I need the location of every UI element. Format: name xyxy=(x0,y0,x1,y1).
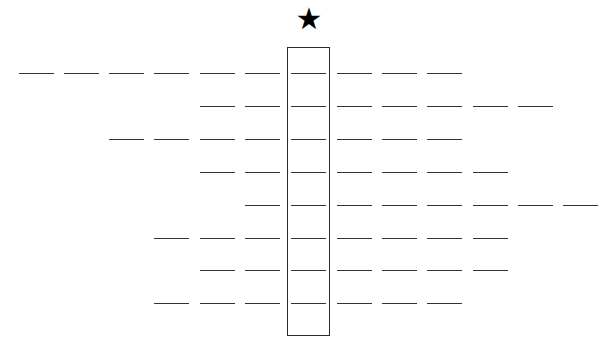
star-icon: ★ xyxy=(294,4,324,34)
letter-blank[interactable] xyxy=(382,205,417,206)
letter-blank[interactable] xyxy=(245,172,280,173)
letter-blank[interactable] xyxy=(382,73,417,74)
letter-blank[interactable] xyxy=(200,172,235,173)
letter-blank[interactable] xyxy=(200,106,235,107)
letter-blank[interactable] xyxy=(154,139,189,140)
letter-blank-highlighted[interactable] xyxy=(291,106,326,107)
letter-blank[interactable] xyxy=(427,172,462,173)
letter-blank[interactable] xyxy=(200,73,235,74)
letter-blank[interactable] xyxy=(518,205,553,206)
letter-blank-highlighted[interactable] xyxy=(291,139,326,140)
letter-blank[interactable] xyxy=(382,270,417,271)
letter-blank-highlighted[interactable] xyxy=(291,238,326,239)
letter-blank[interactable] xyxy=(473,205,508,206)
letter-blank[interactable] xyxy=(337,270,372,271)
letter-blank-highlighted[interactable] xyxy=(291,205,326,206)
letter-blank[interactable] xyxy=(337,73,372,74)
letter-blank[interactable] xyxy=(563,205,598,206)
letter-blank[interactable] xyxy=(109,139,144,140)
letter-blank[interactable] xyxy=(337,106,372,107)
letter-blank-highlighted[interactable] xyxy=(291,73,326,74)
letter-blank-highlighted[interactable] xyxy=(291,303,326,304)
letter-blank[interactable] xyxy=(200,270,235,271)
letter-blank[interactable] xyxy=(427,139,462,140)
letter-blank[interactable] xyxy=(200,238,235,239)
letter-blank[interactable] xyxy=(245,238,280,239)
letter-blank[interactable] xyxy=(337,139,372,140)
hidden-word-column-box xyxy=(287,47,330,336)
letter-blank-highlighted[interactable] xyxy=(291,172,326,173)
letter-blank[interactable] xyxy=(337,238,372,239)
letter-blank[interactable] xyxy=(427,205,462,206)
letter-blank[interactable] xyxy=(337,172,372,173)
letter-blank[interactable] xyxy=(19,73,54,74)
letter-blank[interactable] xyxy=(427,106,462,107)
letter-blank[interactable] xyxy=(382,172,417,173)
letter-blank[interactable] xyxy=(473,270,508,271)
letter-blank[interactable] xyxy=(245,106,280,107)
letter-blank[interactable] xyxy=(473,172,508,173)
letter-blank[interactable] xyxy=(382,238,417,239)
letter-blank[interactable] xyxy=(427,270,462,271)
letter-blank[interactable] xyxy=(337,205,372,206)
letter-blank[interactable] xyxy=(427,73,462,74)
letter-blank[interactable] xyxy=(518,106,553,107)
letter-blank[interactable] xyxy=(473,106,508,107)
letter-blank[interactable] xyxy=(200,139,235,140)
letter-blank[interactable] xyxy=(337,303,372,304)
letter-blank[interactable] xyxy=(245,73,280,74)
letter-blank[interactable] xyxy=(382,106,417,107)
letter-blank[interactable] xyxy=(427,238,462,239)
letter-blank[interactable] xyxy=(427,303,462,304)
letter-blank[interactable] xyxy=(245,303,280,304)
letter-blank[interactable] xyxy=(154,73,189,74)
letter-blank[interactable] xyxy=(382,303,417,304)
letter-blank[interactable] xyxy=(154,303,189,304)
letter-blank[interactable] xyxy=(154,238,189,239)
letter-blank[interactable] xyxy=(473,238,508,239)
letter-blank[interactable] xyxy=(245,270,280,271)
letter-blank[interactable] xyxy=(382,139,417,140)
letter-blank[interactable] xyxy=(200,303,235,304)
letter-blank[interactable] xyxy=(245,205,280,206)
letter-blank[interactable] xyxy=(109,73,144,74)
letter-blank-highlighted[interactable] xyxy=(291,270,326,271)
letter-blank[interactable] xyxy=(245,139,280,140)
letter-blank[interactable] xyxy=(64,73,99,74)
